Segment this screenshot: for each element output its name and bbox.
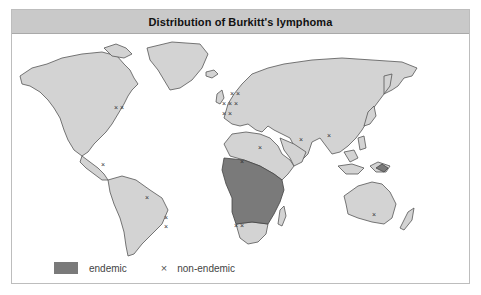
new-zealand [400,208,414,230]
endemic-swatch [54,262,78,274]
svg-text:× ×: × × [230,90,240,97]
legend-endemic-label: endemic [89,263,127,274]
australia [344,182,396,224]
iceland [206,70,218,78]
madagascar [278,206,286,226]
figure-frame: Distribution of Burkitt's lymphoma [11,9,470,284]
indonesia [338,164,364,174]
svg-text:×: × [299,136,303,143]
svg-text:× ×: × × [222,110,232,117]
title-bar: Distribution of Burkitt's lymphoma [12,10,469,34]
central-america [80,156,108,180]
svg-text:×: × [101,161,105,168]
svg-text:×: × [240,158,244,165]
cross-marker-icon: × [161,262,167,274]
svg-text:×: × [327,132,331,139]
world-map: × × × × × × × × × × × × × × × × × × × × [12,34,471,259]
svg-text:×: × [164,223,168,230]
borneo [344,150,358,162]
south-america [108,176,168,256]
svg-text:×: × [258,144,262,151]
svg-text:× ×: × × [114,104,124,111]
svg-text:×: × [372,211,376,218]
legend-non-endemic-label: non-endemic [177,263,235,274]
greenland [147,42,208,90]
figure-title: Distribution of Burkitt's lymphoma [149,16,333,28]
philippines [358,136,366,150]
svg-text:× × ×: × × × [222,100,238,107]
legend: endemic × non-endemic [54,262,235,274]
svg-text:×: × [164,214,168,221]
svg-text:× ×: × × [234,222,244,229]
svg-text:×: × [145,194,149,201]
